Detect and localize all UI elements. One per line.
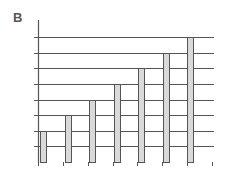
bar [41,132,47,163]
bar [90,101,96,163]
bar [66,116,72,163]
bar [164,54,170,163]
bar [139,69,145,163]
bar-chart [0,0,226,176]
bar [188,38,194,163]
bar [115,85,121,163]
